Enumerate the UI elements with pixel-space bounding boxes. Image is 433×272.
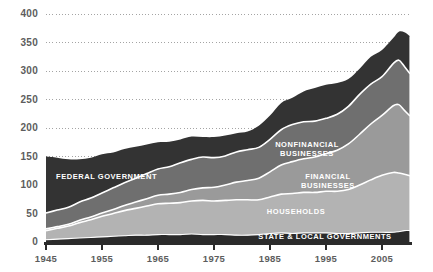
x-axis-tick-label: 1965 — [136, 254, 180, 264]
y-axis-tick-label: 400 — [8, 9, 38, 19]
area-series-group — [46, 31, 410, 242]
y-axis-tick-label: 250 — [8, 95, 38, 105]
y-axis-tick-label: 0 — [8, 237, 38, 247]
x-axis-tick-label: 1995 — [304, 254, 348, 264]
series-label-nonfinancial-businesses: NONFINANCIAL BUSINESSES — [265, 140, 349, 158]
x-axis-tick-label: 1975 — [192, 254, 236, 264]
x-axis-tick-label: 1945 — [24, 254, 68, 264]
x-axis-tick-label: 2005 — [360, 254, 404, 264]
y-axis-tick-label: 100 — [8, 180, 38, 190]
series-label-households: HOUSEHOLDS — [258, 207, 334, 216]
y-axis-tick-label: 200 — [8, 123, 38, 133]
y-axis-tick-label: 350 — [8, 38, 38, 48]
x-axis-tick-label: 1985 — [248, 254, 292, 264]
series-label-federal-government: FEDERAL GOVERNMENT — [56, 172, 157, 181]
stacked-area-chart: 050100150200250300350400 194519551965197… — [0, 0, 433, 272]
y-axis-tick-label: 50 — [8, 209, 38, 219]
y-axis-tick-label: 150 — [8, 152, 38, 162]
series-label-financial-businesses: FINANCIAL BUSINESSES — [288, 172, 368, 190]
x-axis-tick-label: 1955 — [80, 254, 124, 264]
series-label-state-local-governments: STATE & LOCAL GOVERNMENTS — [250, 232, 400, 241]
y-axis-tick-label: 300 — [8, 66, 38, 76]
